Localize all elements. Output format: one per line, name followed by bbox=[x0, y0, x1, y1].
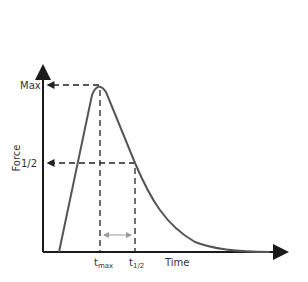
thalf-label: t1/2 bbox=[129, 257, 144, 270]
tmax-label: tmax bbox=[94, 257, 113, 270]
force-time-diagram: Force Max 1/2 tmax t1/2 Time bbox=[0, 0, 308, 282]
half-label: 1/2 bbox=[21, 158, 37, 169]
max-label: Max bbox=[20, 80, 41, 91]
x-axis-label: Time bbox=[164, 257, 189, 268]
force-curve bbox=[59, 87, 270, 252]
